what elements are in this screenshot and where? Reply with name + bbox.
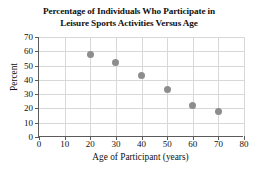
y-axis-tick-label: 0 — [29, 133, 34, 142]
y-axis-tick — [35, 51, 39, 52]
y-axis-tick-label: 40 — [24, 75, 33, 84]
y-axis-tick-label: 50 — [24, 61, 33, 70]
x-axis-tick-label: 80 — [240, 140, 249, 149]
x-axis-title: Age of Participant (years) — [38, 152, 243, 162]
x-gridline — [142, 37, 143, 137]
data-point — [87, 51, 94, 58]
plot-area: 01020304050607001020304050607080 — [38, 37, 243, 137]
y-axis-tick-label: 20 — [24, 104, 33, 113]
x-axis-tick-label: 10 — [60, 140, 69, 149]
x-axis-tick-label: 70 — [214, 140, 223, 149]
y-axis-tick — [35, 123, 39, 124]
y-axis-title: Percent — [9, 47, 19, 107]
data-point — [138, 72, 145, 79]
x-gridline — [116, 37, 117, 137]
x-axis-tick-label: 60 — [188, 140, 197, 149]
x-gridline — [193, 37, 194, 137]
x-axis-tick-label: 30 — [111, 140, 120, 149]
chart-title-line-1: Percentage of Individuals Who Participat… — [0, 6, 258, 18]
data-point — [164, 86, 171, 93]
scatter-chart-figure: Percentage of Individuals Who Participat… — [0, 0, 258, 174]
x-gridline — [244, 37, 245, 137]
y-axis-tick-label: 10 — [24, 118, 33, 127]
y-axis-tick-label: 30 — [24, 90, 33, 99]
y-axis-tick — [35, 94, 39, 95]
y-axis-tick — [35, 66, 39, 67]
x-axis-tick-label: 0 — [37, 140, 42, 149]
y-axis-tick-label: 70 — [24, 33, 33, 42]
x-gridline — [65, 37, 66, 137]
x-axis-tick-label: 40 — [137, 140, 146, 149]
data-point — [215, 108, 222, 115]
chart-title-line-2: Leisure Sports Activities Versus Age — [0, 18, 258, 30]
y-axis-tick — [35, 80, 39, 81]
x-gridline — [218, 37, 219, 137]
y-axis-tick — [35, 108, 39, 109]
y-axis-tick-label: 60 — [24, 47, 33, 56]
y-axis-tick — [35, 37, 39, 38]
x-axis-tick-label: 50 — [163, 140, 172, 149]
x-axis-tick-label: 20 — [86, 140, 95, 149]
chart-title: Percentage of Individuals Who Participat… — [0, 6, 258, 29]
